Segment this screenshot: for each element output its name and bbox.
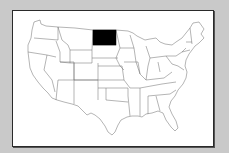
state-north-dakota-highlighted — [93, 30, 116, 45]
us-map — [0, 0, 229, 153]
